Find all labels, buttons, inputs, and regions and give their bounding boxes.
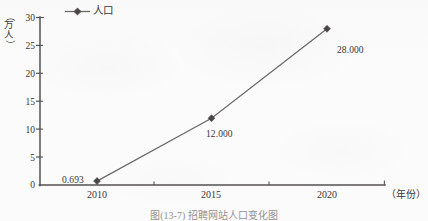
- data-label-2020: 28.000: [337, 46, 364, 56]
- y-axis-title: （ 万 人 ）: [2, 12, 16, 49]
- x-axis-title: （年份）: [386, 190, 426, 200]
- y-axis-title-char-3: ）: [5, 40, 14, 50]
- data-point-marker-2010: [94, 178, 101, 185]
- y-tick-label-10: 10: [17, 126, 35, 136]
- series-markers-population: [94, 25, 331, 184]
- y-axis-title-char-1: 万: [4, 21, 14, 30]
- y-tick-label-25: 25: [17, 42, 35, 52]
- figure-caption-text: 图(13-7) 招聘网站人口变化图: [150, 207, 278, 221]
- chart-plot-area: [0, 0, 428, 221]
- y-tick-label-0: 0: [17, 181, 35, 191]
- y-tick-label-15: 15: [17, 98, 35, 108]
- diamond-marker-icon: [74, 8, 81, 15]
- y-tick-label-5: 5: [17, 154, 35, 164]
- x-tick-label-2015: 2015: [188, 190, 234, 200]
- figure-caption: 图(13-7) 招聘网站人口变化图: [0, 207, 428, 221]
- y-tick-label-30: 30: [17, 14, 35, 24]
- legend-marker-population: [65, 8, 90, 15]
- y-tick-label-20: 20: [17, 70, 35, 80]
- legend-entry-label-population: 人口: [93, 6, 113, 17]
- x-tick-label-2020: 2020: [304, 190, 350, 200]
- data-label-2010: 0.693: [62, 176, 84, 186]
- population-line-chart-figure: （ 万 人 ） 30 25 20 15 10 5 0 2010 2015 202…: [0, 0, 428, 221]
- series-line-population: [97, 29, 327, 181]
- x-tick-label-2010: 2010: [74, 190, 120, 200]
- data-label-2015: 12.000: [206, 130, 233, 140]
